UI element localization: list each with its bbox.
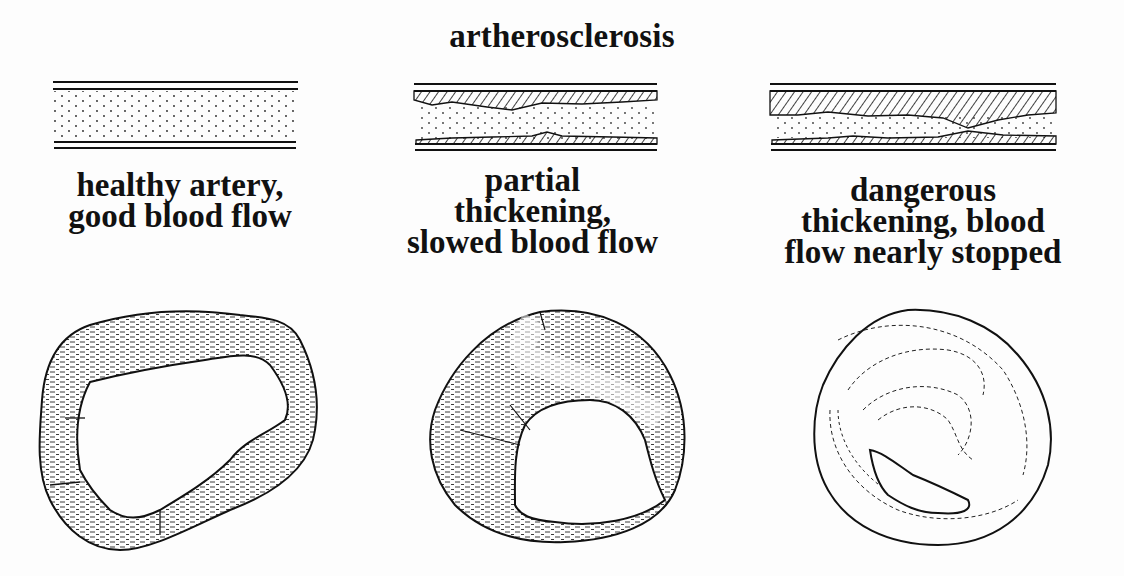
- label-line: thickening, blood: [728, 206, 1118, 237]
- label-line: thickening,: [360, 196, 705, 227]
- label-line: good blood flow: [20, 201, 340, 232]
- label-healthy: healthy artery, good blood flow: [20, 170, 340, 232]
- label-line: partial: [360, 165, 705, 196]
- dangerous-thickening-cross-section: [808, 300, 1068, 550]
- partial-thickening-longitudinal: [412, 80, 662, 152]
- healthy-artery-longitudinal: [52, 78, 302, 150]
- label-line: flow nearly stopped: [728, 237, 1118, 268]
- dangerous-thickening-longitudinal: [768, 80, 1060, 152]
- label-line: slowed blood flow: [360, 227, 705, 258]
- partial-thickening-cross-section: [425, 300, 705, 550]
- label-partial: partial thickening, slowed blood flow: [360, 165, 705, 258]
- label-dangerous: dangerous thickening, blood flow nearly …: [728, 175, 1118, 268]
- diagram-title: artherosclerosis: [0, 18, 1124, 55]
- healthy-artery-cross-section: [30, 310, 330, 555]
- label-line: healthy artery,: [20, 170, 340, 201]
- label-line: dangerous: [728, 175, 1118, 206]
